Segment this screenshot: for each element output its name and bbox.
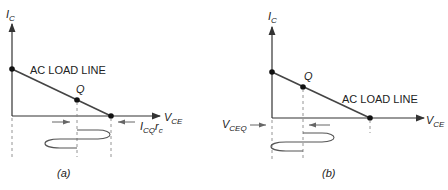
load-line-figure: IC VCE AC LOAD LINE Q ICQrc (a) IC VCE Q… <box>0 0 448 190</box>
x-axis-label: VCE <box>426 114 445 129</box>
ac-load-line <box>12 69 111 116</box>
intercept-point <box>367 115 373 121</box>
q-point <box>74 97 80 103</box>
y-axis-label: IC <box>268 10 277 25</box>
signal-swing <box>45 130 110 148</box>
intercept-point <box>108 113 114 119</box>
x-axis-label: VCE <box>164 111 183 126</box>
load-line-label: AC LOAD LINE <box>30 64 106 76</box>
caption-b: (b) <box>322 167 336 179</box>
q-label: Q <box>304 70 313 82</box>
q-label: Q <box>76 83 85 95</box>
signal-swing <box>271 133 334 151</box>
intercept-point <box>9 66 15 72</box>
diagram-b: IC VCE Q AC LOAD LINE VCEQ (b) <box>222 10 445 179</box>
vceq-label: VCEQ <box>222 118 247 133</box>
intercept-point <box>269 69 275 75</box>
diagram-a: IC VCE AC LOAD LINE Q ICQrc (a) <box>6 8 183 179</box>
y-axis-label: IC <box>6 8 15 23</box>
caption-a: (a) <box>57 167 71 179</box>
load-line-label: AC LOAD LINE <box>342 93 418 105</box>
icq-rc-label: ICQrc <box>140 120 163 135</box>
q-point <box>300 84 306 90</box>
